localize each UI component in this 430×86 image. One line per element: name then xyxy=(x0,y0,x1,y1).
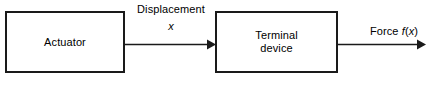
force-close-paren: ) xyxy=(414,25,418,37)
force-label: Force xyxy=(370,25,402,37)
actuator-block: Actuator xyxy=(5,11,125,73)
displacement-arrow-icon xyxy=(124,38,216,50)
force-annotation: Force f(x) xyxy=(358,25,430,38)
force-arrow-icon xyxy=(337,38,426,50)
block-diagram: Actuator Terminal device Displacement x … xyxy=(0,0,430,86)
displacement-variable: x xyxy=(131,20,211,33)
displacement-label: Displacement xyxy=(137,3,205,15)
actuator-block-label: Actuator xyxy=(44,36,86,49)
terminal-device-block: Terminal device xyxy=(215,11,338,73)
terminal-device-block-label: Terminal device xyxy=(255,29,297,55)
displacement-annotation: Displacement x xyxy=(131,3,211,33)
